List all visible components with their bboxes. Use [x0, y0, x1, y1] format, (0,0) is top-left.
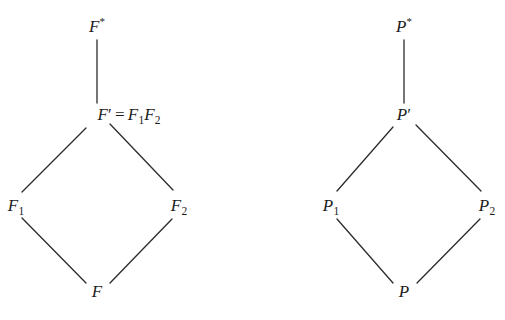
lattice-edge-P-prime--P-two — [416, 125, 481, 191]
lattice-edge-P-one--P-base — [337, 219, 393, 283]
lattice-edge-F-two--F-base — [110, 219, 172, 283]
lattice-node-F-star: F* — [89, 18, 105, 35]
lattice-node-P-two: P2 — [479, 197, 495, 214]
lattice-node-P-base: P — [399, 283, 410, 300]
lattice-edge-P-two--P-base — [417, 219, 480, 283]
lattice-node-P-one: P1 — [323, 197, 339, 214]
lattice-node-F-two: F2 — [171, 197, 187, 214]
lattice-node-F-base: F — [92, 283, 103, 300]
field-extension-lattice — [22, 40, 173, 283]
lattice-edge-F-one--F-base — [22, 218, 86, 283]
lattice-node-P-star: P* — [396, 18, 412, 35]
lattice-figure: F*F′=F1F2F1F2FP*P′P1P2P — [0, 0, 505, 320]
group-lattice — [337, 40, 481, 283]
lattice-edges-layer — [0, 0, 505, 320]
lattice-node-P-prime: P′ — [397, 106, 412, 123]
lattice-node-F-one: F1 — [8, 197, 24, 214]
lattice-edge-F-prime--F-one — [22, 128, 86, 192]
lattice-edge-F-prime--F-two — [110, 124, 173, 190]
lattice-edge-P-prime--P-one — [337, 127, 393, 191]
lattice-node-F-prime: F′=F1F2 — [98, 106, 161, 123]
